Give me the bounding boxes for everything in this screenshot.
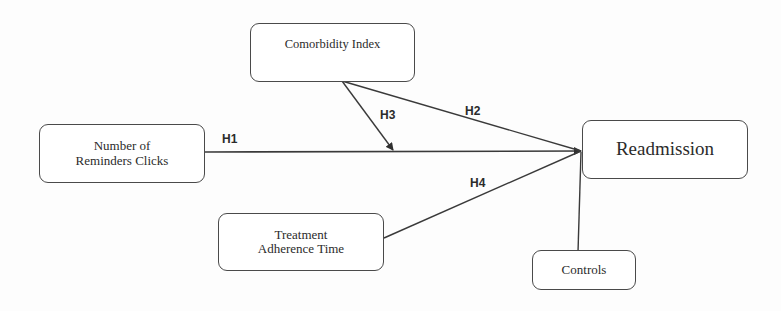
edge-label-h1: H1: [222, 132, 237, 146]
node-reminders-line2: Reminders Clicks: [76, 154, 169, 168]
node-controls-label: Controls: [562, 263, 607, 277]
node-adherence-line1: Treatment: [275, 228, 328, 242]
edge-label-h4: H4: [470, 176, 485, 190]
node-controls: Controls: [532, 250, 636, 290]
edge-label-h3: H3: [380, 108, 395, 122]
node-reminders-clicks: Number of Reminders Clicks: [39, 124, 205, 183]
edge-h2: [342, 81, 581, 151]
node-comorbidity-index: Comorbidity Index: [250, 23, 415, 82]
edge-h4: [384, 151, 581, 238]
node-treatment-adherence: Treatment Adherence Time: [218, 213, 384, 271]
edge-controls: [578, 152, 581, 252]
node-reminders-line1: Number of: [94, 139, 151, 153]
edge-h1: [205, 151, 581, 152]
edge-label-h2: H2: [465, 104, 480, 118]
node-comorbidity-label: Comorbidity Index: [285, 38, 380, 52]
node-adherence-line2: Adherence Time: [258, 242, 344, 256]
diagram-canvas: Comorbidity Index Number of Reminders Cl…: [0, 0, 781, 311]
node-readmission-label: Readmission: [616, 139, 714, 160]
node-readmission: Readmission: [582, 120, 748, 179]
